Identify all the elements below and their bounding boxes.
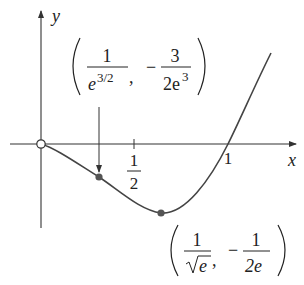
svg-text:e: e — [199, 256, 207, 276]
tick-label-one: 1 — [224, 149, 233, 168]
minimum-point-dot — [157, 209, 164, 216]
svg-text:1: 1 — [193, 230, 202, 250]
svg-text:1: 1 — [252, 230, 261, 250]
svg-text:2: 2 — [130, 174, 139, 193]
y-axis-label: y — [50, 6, 60, 26]
svg-text:−: − — [228, 240, 238, 260]
svg-text:,: , — [129, 67, 134, 87]
inflection-point-dot — [95, 173, 102, 180]
svg-text:2e: 2e — [163, 74, 180, 94]
tick-label-half: 1 2 — [127, 151, 141, 193]
inflection-point-label: 1 e 3/2 , − 3 2e 3 — [73, 38, 205, 95]
function-curve — [41, 53, 271, 213]
svg-text:3: 3 — [182, 69, 189, 84]
svg-text:3/2: 3/2 — [97, 70, 114, 85]
svg-text:2e: 2e — [245, 256, 262, 276]
function-graph: y x 1 2 1 1 e 3/2 , − 3 2e 3 1 e — [0, 0, 304, 285]
svg-text:1: 1 — [130, 151, 139, 170]
svg-text:,: , — [212, 250, 217, 270]
svg-text:e: e — [88, 74, 96, 94]
svg-text:−: − — [146, 57, 156, 77]
svg-text:1: 1 — [103, 46, 112, 66]
svg-text:3: 3 — [171, 46, 180, 66]
x-axis-label: x — [287, 150, 296, 170]
minimum-point-label: 1 e , − 1 2e — [171, 225, 285, 276]
origin-open-circle — [37, 140, 45, 148]
